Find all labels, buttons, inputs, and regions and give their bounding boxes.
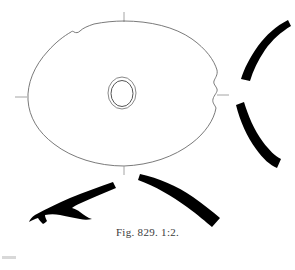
profile-lower-centre (138, 174, 220, 227)
profile-lower-right-path (236, 102, 281, 168)
profile-lower-right (236, 102, 281, 168)
axis-ticks-group (15, 12, 229, 175)
profile-upper-right (241, 20, 291, 81)
profile-lower-left (29, 182, 116, 224)
figure-caption: Fig. 829. 1:2. (0, 226, 295, 238)
figure-plate: Fig. 829. 1:2. (0, 0, 295, 270)
central-perforation-group (108, 77, 136, 109)
profile-lower-centre-path (138, 174, 220, 227)
perforation-inner-ring (111, 81, 133, 107)
disc-outline-path (28, 21, 217, 166)
perforation-outer-ring (108, 77, 136, 109)
profile-lower-left-path (29, 182, 116, 224)
plan-view-outline-group (28, 21, 217, 166)
scan-artifact-mark (2, 256, 16, 259)
profile-upper-right-path (241, 20, 291, 81)
